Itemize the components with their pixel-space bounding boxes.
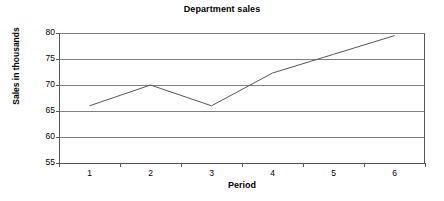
- y-axis-tick-marks: [56, 34, 59, 164]
- data-line-department-sales: [90, 36, 395, 106]
- plot-area: [0, 0, 444, 201]
- data-series: [90, 36, 395, 106]
- chart-container: Department sales Sales in thousands Peri…: [0, 0, 444, 201]
- gridlines: [59, 34, 425, 164]
- axis-lines: [59, 33, 425, 164]
